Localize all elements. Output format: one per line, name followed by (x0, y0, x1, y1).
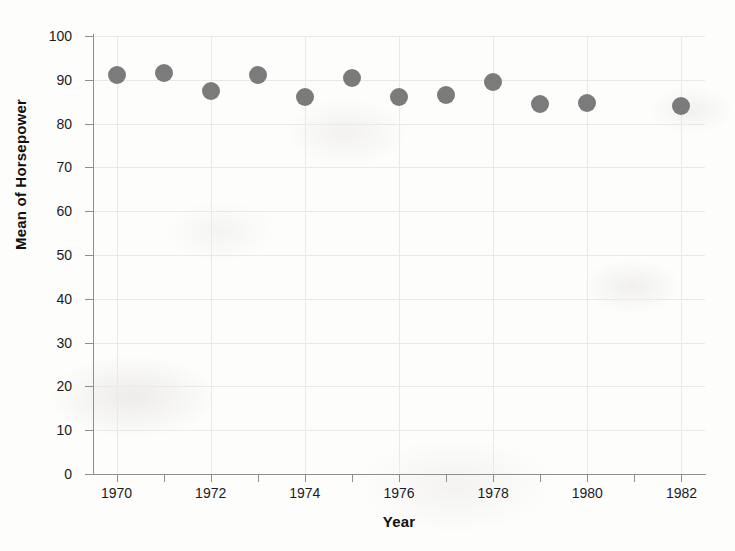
data-point (578, 94, 596, 112)
y-axis-tick-label: 20 (20, 379, 72, 393)
y-axis-tick (85, 167, 93, 168)
data-point (249, 66, 267, 84)
x-axis-tick (305, 474, 306, 482)
x-axis-tick-label: 1972 (181, 486, 241, 500)
x-axis-tick (258, 474, 259, 482)
x-axis-tick (352, 474, 353, 482)
x-axis-tick (681, 474, 682, 482)
x-axis-tick (587, 474, 588, 482)
plot-area (93, 36, 705, 474)
x-axis-tick-label: 1976 (369, 486, 429, 500)
data-point (672, 97, 690, 115)
y-axis-tick (85, 36, 93, 37)
data-point (296, 88, 314, 106)
y-axis-tick (85, 211, 93, 212)
data-point (343, 69, 361, 87)
y-axis-line (93, 34, 94, 475)
y-axis-title: Mean of Horsepower (12, 55, 29, 295)
y-axis-tick (85, 124, 93, 125)
x-axis-tick (399, 474, 400, 482)
y-axis-tick (85, 255, 93, 256)
x-axis-tick-label: 1974 (275, 486, 335, 500)
y-axis-tick-label: 100 (20, 29, 72, 43)
x-axis-tick-label: 1970 (87, 486, 147, 500)
x-axis-tick (164, 474, 165, 482)
x-axis-tick-label: 1978 (463, 486, 523, 500)
y-axis-tick (85, 474, 93, 475)
x-axis-tick (634, 474, 635, 482)
y-axis-tick (85, 299, 93, 300)
data-point (108, 66, 126, 84)
data-point (390, 88, 408, 106)
data-point (202, 82, 220, 100)
y-axis-tick-label: 10 (20, 423, 72, 437)
y-axis-tick-label: 0 (20, 467, 72, 481)
y-axis-tick (85, 386, 93, 387)
data-point (531, 95, 549, 113)
gridline-vertical (493, 36, 494, 474)
gridline-vertical (117, 36, 118, 474)
gridline-vertical (211, 36, 212, 474)
data-point (484, 73, 502, 91)
x-axis-tick (540, 474, 541, 482)
y-axis-tick (85, 430, 93, 431)
x-axis-tick (446, 474, 447, 482)
x-axis-tick-label: 1982 (651, 486, 711, 500)
data-point (437, 86, 455, 104)
data-point (155, 64, 173, 82)
scatter-chart: 0102030405060708090100 19701972197419761… (0, 0, 735, 551)
y-axis-tick-label: 30 (20, 336, 72, 350)
y-axis-tick (85, 343, 93, 344)
x-axis-tick (117, 474, 118, 482)
x-axis-tick-label: 1980 (557, 486, 617, 500)
x-axis-tick (493, 474, 494, 482)
x-axis-tick (211, 474, 212, 482)
x-axis-title: Year (93, 513, 705, 530)
y-axis-tick (85, 80, 93, 81)
